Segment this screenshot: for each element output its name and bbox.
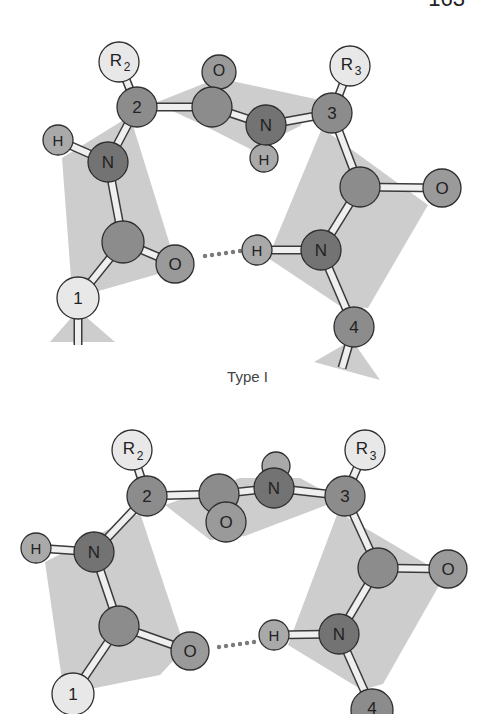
svg-text:R: R [341, 55, 353, 74]
atom-hydrogen-mid: H [250, 144, 278, 172]
atom-nitrogen-mid: N [246, 105, 286, 145]
atom-calpha-4: 4 [351, 689, 393, 714]
type-i-turn-diagram: R 2 2 O H N R 3 3 [43, 42, 461, 380]
svg-text:N: N [315, 241, 327, 260]
type-ii-turn-diagram: R 2 2 O N R 3 3 [21, 430, 467, 714]
atom-oxygen-right: O [429, 550, 467, 588]
atom-carbon-left [102, 221, 144, 263]
atom-nitrogen-mid: N [254, 468, 294, 508]
atom-r2: R 2 [99, 42, 139, 82]
atom-carbon-right [340, 167, 380, 207]
svg-text:R: R [356, 439, 368, 458]
svg-text:O: O [435, 179, 448, 198]
beta-turn-figure: R 2 2 O H N R 3 3 [0, 0, 487, 714]
svg-text:O: O [219, 513, 232, 532]
svg-text:2: 2 [132, 98, 141, 117]
svg-text:R: R [123, 439, 135, 458]
atom-oxygen-left: O [171, 632, 209, 670]
atom-calpha-1: 1 [52, 673, 94, 714]
svg-text:2: 2 [124, 60, 131, 74]
svg-text:H: H [269, 627, 280, 644]
atom-nitrogen-right: N [319, 614, 359, 654]
svg-text:4: 4 [349, 318, 358, 337]
atom-calpha-1: 1 [57, 277, 99, 319]
atom-calpha-2: 2 [117, 87, 157, 127]
atom-nitrogen-left: N [88, 142, 128, 182]
atom-calpha-4: 4 [334, 307, 374, 347]
atom-hydrogen-right: H [259, 620, 289, 650]
svg-text:R: R [110, 51, 122, 70]
figure-caption-type-i: Type I [4, 368, 487, 385]
svg-text:3: 3 [355, 64, 362, 78]
atom-calpha-3: 3 [325, 476, 365, 516]
atom-oxygen-mid: O [206, 502, 246, 542]
atom-oxygen-top: O [202, 55, 236, 89]
atom-carbon-left [99, 606, 139, 646]
svg-text:H: H [31, 540, 42, 557]
atom-oxygen-right: O [423, 169, 461, 207]
svg-text:N: N [88, 543, 100, 562]
svg-text:H: H [252, 242, 263, 259]
svg-text:3: 3 [340, 487, 349, 506]
svg-text:4: 4 [367, 699, 376, 714]
svg-text:N: N [333, 625, 345, 644]
svg-text:H: H [53, 132, 64, 149]
svg-text:3: 3 [370, 449, 377, 463]
hydrogen-bond [217, 640, 256, 649]
atom-hydrogen-left: H [43, 125, 73, 155]
atom-calpha-2: 2 [127, 476, 167, 516]
svg-text:3: 3 [327, 104, 336, 123]
atom-hydrogen-right: H [242, 235, 272, 265]
atom-carbon-mid [192, 87, 232, 127]
svg-text:1: 1 [68, 685, 77, 704]
svg-text:N: N [260, 116, 272, 135]
atom-carbon-right [358, 548, 398, 588]
atom-hydrogen-left: H [21, 533, 51, 563]
atom-r3: R 3 [330, 46, 370, 86]
svg-text:O: O [183, 642, 196, 661]
hydrogen-bond [203, 249, 242, 258]
atom-nitrogen-left: N [74, 532, 114, 572]
atom-nitrogen-right: N [301, 230, 341, 270]
svg-text:N: N [102, 153, 114, 172]
svg-text:O: O [168, 255, 181, 274]
svg-text:O: O [441, 560, 454, 579]
atom-r2: R 2 [112, 430, 152, 470]
svg-text:2: 2 [142, 487, 151, 506]
svg-text:1: 1 [73, 289, 82, 308]
atom-r3: R 3 [345, 430, 385, 470]
svg-text:O: O [213, 62, 225, 79]
atom-oxygen-left: O [156, 245, 194, 283]
svg-text:N: N [268, 479, 280, 498]
svg-text:2: 2 [137, 449, 144, 463]
atom-calpha-3: 3 [312, 93, 352, 133]
svg-text:H: H [259, 151, 270, 168]
